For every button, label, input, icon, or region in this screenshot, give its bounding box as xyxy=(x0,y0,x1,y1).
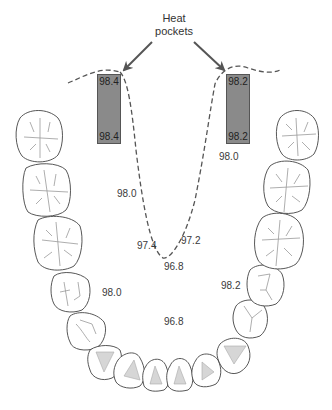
tooth-left-2 xyxy=(23,164,71,217)
tooth-left-4 xyxy=(51,273,90,312)
arrow-right-icon xyxy=(194,42,224,70)
pocket-left-bottom-value: 98.4 xyxy=(98,131,120,142)
tooth-left-1 xyxy=(16,111,62,162)
title-line-1: Heat xyxy=(139,12,209,25)
reading-right-upper: 98.0 xyxy=(219,151,238,162)
reading-curve-left: 97.4 xyxy=(137,240,156,251)
tooth-right-7 xyxy=(192,354,221,387)
tooth-right-1 xyxy=(276,111,318,161)
tooth-right-3 xyxy=(255,213,304,269)
arrow-left-icon xyxy=(124,42,152,70)
title-line-2: pockets xyxy=(139,25,209,38)
mouth-diagram xyxy=(0,0,332,410)
pocket-left-top-value: 98.4 xyxy=(98,76,120,87)
pocket-right-bottom-value: 98.2 xyxy=(227,131,249,142)
tooth-right-8 xyxy=(167,359,193,392)
tooth-left-5 xyxy=(67,313,106,350)
tooth-left-3 xyxy=(34,216,82,270)
reading-right-lower: 98.2 xyxy=(221,280,240,291)
heat-pocket-left: 98.4 98.4 xyxy=(97,74,121,144)
heat-pocket-right: 98.2 98.2 xyxy=(226,74,250,144)
tooth-right-4 xyxy=(247,265,284,306)
heat-pockets-title: Heat pockets xyxy=(139,12,209,38)
tooth-right-6 xyxy=(217,338,250,373)
teeth xyxy=(16,111,318,392)
reading-left-lower: 98.0 xyxy=(102,287,121,298)
tooth-left-8 xyxy=(143,359,169,391)
tooth-right-2 xyxy=(264,161,310,213)
reading-curve-bottom: 96.8 xyxy=(164,261,183,272)
pocket-right-top-value: 98.2 xyxy=(227,76,249,87)
reading-curve-right: 97.2 xyxy=(181,235,200,246)
reading-left-mid: 98.0 xyxy=(117,188,136,199)
reading-center-floor: 96.8 xyxy=(164,316,183,327)
